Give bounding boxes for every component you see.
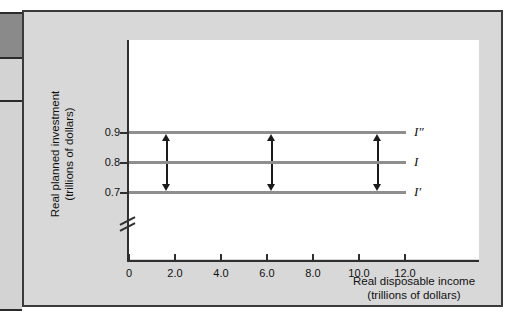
shift-up-arrow (372, 134, 383, 161)
shift-down-arrow (372, 164, 383, 191)
x-tick-label-0: 0 (109, 267, 149, 279)
y-axis-title-units: (trillions of dollars) (63, 107, 75, 200)
plot-area (129, 40, 479, 259)
edge-box-dark (0, 12, 22, 61)
y-tick-0.9 (120, 132, 129, 134)
x-tick-0 (128, 254, 130, 262)
y-tick-label-0.7: 0.7 (80, 186, 120, 198)
curve-label-I: I (414, 154, 418, 170)
y-tick-labels: 0.9 0.8 0.7 (70, 12, 120, 309)
x-axis-title: Real disposable income (trillions of dol… (324, 274, 504, 302)
x-tick-4.0 (220, 254, 222, 262)
shift-down-arrow (161, 164, 172, 191)
y-tick-0.7 (120, 192, 129, 194)
x-tick-label-2.0: 2.0 (155, 267, 195, 279)
shift-up-arrow (266, 134, 277, 161)
figure-panel: 0.9 0.8 0.7 0 2.0 4.0 6.0 8.0 10.0 12.0 (22, 10, 503, 307)
figure-root: 0.9 0.8 0.7 0 2.0 4.0 6.0 8.0 10.0 12.0 (0, 0, 513, 321)
x-tick-8.0 (312, 254, 314, 262)
x-axis-title-main: Real disposable income (353, 275, 475, 287)
y-axis-break-icon (119, 215, 137, 233)
edge-box-light-1 (0, 57, 22, 104)
x-tick-10.0 (358, 254, 360, 262)
shift-down-arrow (266, 164, 277, 191)
curve-label-I-double-prime: I″ (414, 124, 424, 140)
x-axis (127, 260, 479, 262)
curve-label-I-prime: I′ (414, 184, 421, 200)
y-axis-title: Real planned investment (trillions of do… (48, 44, 76, 264)
y-tick-label-0.8: 0.8 (80, 156, 120, 168)
x-tick-label-4.0: 4.0 (201, 267, 241, 279)
x-tick-12.0 (404, 254, 406, 262)
y-axis-title-main: Real planned investment (49, 91, 61, 218)
x-tick-6.0 (266, 254, 268, 262)
x-tick-2.0 (174, 254, 176, 262)
shift-up-arrow (161, 134, 172, 161)
y-tick-label-0.9: 0.9 (80, 126, 120, 138)
y-tick-0.8 (120, 162, 129, 164)
series-line-I-prime (129, 191, 406, 194)
x-axis-title-units: (trillions of dollars) (367, 289, 460, 301)
edge-tab-strip (0, 0, 22, 321)
edge-box-light-2 (0, 100, 22, 311)
x-tick-label-6.0: 6.0 (247, 267, 287, 279)
